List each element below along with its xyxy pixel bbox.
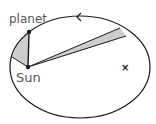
direction-arrow-icon [77, 13, 81, 21]
planet-label: planet [9, 13, 47, 25]
sun-dot [26, 65, 30, 69]
radius-line-planet [28, 32, 29, 67]
radius-line-far-2 [28, 36, 126, 67]
radius-line-far-1 [28, 28, 120, 67]
planet-dot [27, 30, 31, 34]
sun-label: Sun [16, 72, 41, 84]
empty-focus-marker: × [121, 62, 129, 74]
